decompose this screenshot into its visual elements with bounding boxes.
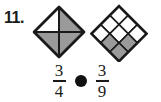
fraction-left-denominator: 4 bbox=[53, 82, 66, 100]
diamond-fourths-svg bbox=[31, 4, 87, 60]
fraction-right: 3 9 bbox=[96, 62, 109, 100]
figure-row bbox=[0, 0, 161, 62]
fraction-right-numerator: 3 bbox=[96, 62, 109, 80]
fraction-left-numerator: 3 bbox=[53, 62, 66, 80]
fraction-left: 3 4 bbox=[53, 62, 66, 100]
comparison-row: 3 4 3 9 bbox=[0, 60, 161, 102]
answer-dot[interactable] bbox=[75, 75, 87, 87]
fraction-figure-right bbox=[90, 4, 148, 66]
fraction-right-denominator: 9 bbox=[96, 82, 109, 100]
fraction-figure-left bbox=[31, 4, 87, 64]
diamond-ninths-svg bbox=[90, 4, 148, 62]
worksheet-problem-11: 11. bbox=[0, 0, 161, 102]
